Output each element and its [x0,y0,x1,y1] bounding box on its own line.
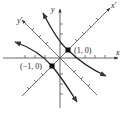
vertex-label-1-0: (1, 0) [74,46,92,55]
vertex-point-neg1-0 [50,64,55,69]
vertex-label-neg1-0: (−1, 0) [20,62,42,71]
y-axis-label: y [50,5,55,14]
x-axis-label: x [115,48,120,57]
x-prime-axis-label: x' [110,1,117,10]
hyperbola-diagram: x y x' [0,0,133,113]
vertex-points: (1, 0) (−1, 0) [20,46,92,71]
vertex-point-1-0 [66,48,71,53]
y-prime-axis-label: y' [16,16,23,25]
